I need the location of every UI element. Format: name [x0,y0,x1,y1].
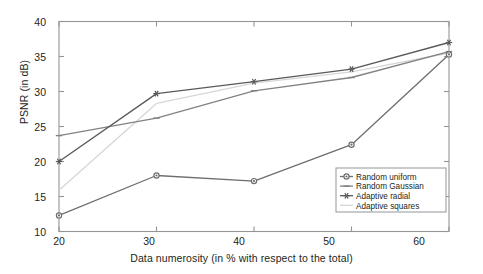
x-tick-label-20: 20 [44,235,74,247]
legend-marker-0-core [345,175,347,177]
series-marker-random-uniform-50-core [350,144,352,146]
series-marker-random-uniform-60-core [448,53,450,55]
legend-label-0: Random uniform [356,173,417,182]
series-line-adaptive-radial [59,43,449,162]
series-marker-random-uniform-40-core [253,180,255,182]
legend-label-1: Random Gaussian [356,182,424,191]
y-tick-label-20: 20 [22,156,46,168]
legend-box[interactable]: Random uniformRandom GaussianAdaptive ra… [336,168,446,212]
chart-figure: PSNR (in dB) Data numerosity (in % with … [0,0,483,274]
x-tick-label-50: 50 [314,235,344,247]
series-marker-random-uniform-30-core [155,174,157,176]
legend-label-2: Adaptive radial [356,192,410,201]
x-tick-label-40: 40 [224,235,254,247]
y-tick-label-15: 15 [22,191,46,203]
y-tick-label-35: 35 [22,51,46,63]
x-axis-label: Data numerosity (in % with respect to th… [0,252,483,264]
plot-area: Random uniformRandom GaussianAdaptive ra… [0,0,483,274]
y-tick-label-10: 10 [22,226,46,238]
y-tick-label-40: 40 [22,16,46,28]
y-tick-label-30: 30 [22,86,46,98]
x-tick-label-30: 30 [134,235,164,247]
series-marker-random-uniform-20-core [58,214,60,216]
x-tick-label-60: 60 [404,235,434,247]
y-tick-label-25: 25 [22,121,46,133]
legend-label-3: Adaptive squares [356,202,419,211]
